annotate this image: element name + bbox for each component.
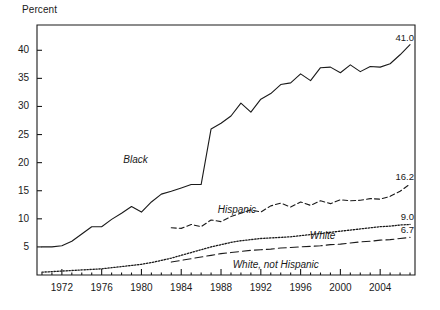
- end-value-label: 41.0: [384, 32, 414, 43]
- y-axis-tick-label: 20: [5, 157, 29, 168]
- series-line-hispanic: [171, 184, 410, 228]
- series-line-black: [42, 45, 410, 247]
- series-label-hispanic: Hispanic: [218, 204, 256, 215]
- series-label-black: Black: [123, 154, 147, 165]
- series-label-white-not-hispanic: White, not Hispanic: [233, 259, 319, 270]
- y-axis-tick-label: 25: [5, 129, 29, 140]
- x-axis-tick-label: 2000: [320, 282, 360, 293]
- x-axis-tick-label: 1992: [241, 282, 281, 293]
- y-axis-tick-label: 35: [5, 72, 29, 83]
- end-value-label: 16.2: [384, 171, 414, 182]
- y-axis-tick-label: 30: [5, 100, 29, 111]
- series-line-white: [42, 224, 410, 272]
- x-axis-tick-label: 1980: [121, 282, 161, 293]
- y-axis-tick-label: 10: [5, 213, 29, 224]
- x-axis-tick-label: 1988: [201, 282, 241, 293]
- y-axis-tick-label: 5: [5, 241, 29, 252]
- end-value-label: 6.7: [384, 224, 414, 235]
- plot-frame: [37, 25, 415, 275]
- x-axis-tick-label: 1984: [161, 282, 201, 293]
- x-axis-tick-label: 1976: [82, 282, 122, 293]
- y-axis-tick-label: 40: [5, 44, 29, 55]
- chart-container: Percent 510152025303540 1972197619801984…: [0, 0, 440, 310]
- y-axis-tick-label: 15: [5, 185, 29, 196]
- x-axis-tick-label: 2004: [360, 282, 400, 293]
- series-label-white: White: [310, 230, 336, 241]
- line-chart-plot: [0, 0, 440, 310]
- x-axis-tick-label: 1996: [281, 282, 321, 293]
- x-axis-tick-label: 1972: [42, 282, 82, 293]
- end-value-label: 9.0: [384, 211, 414, 222]
